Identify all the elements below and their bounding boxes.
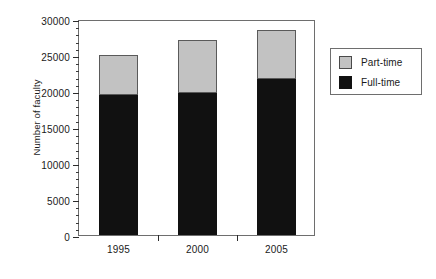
y-axis-minor-tick: [76, 79, 80, 80]
y-axis-minor-tick: [76, 35, 80, 36]
legend-item-full-time: Full-time: [339, 75, 400, 89]
bar-segment-full-time: [178, 93, 217, 235]
y-axis-tick-label: 20000: [41, 88, 70, 99]
y-axis-minor-tick: [76, 158, 80, 159]
bar-2005: [257, 19, 296, 235]
faculty-stacked-bar-chart: Number of faculty 0500010000150002000025…: [0, 0, 436, 279]
plot-area: 0500010000150002000025000300001995200020…: [78, 20, 315, 236]
y-axis-minor-tick: [76, 71, 80, 72]
y-axis-tick-label: 10000: [41, 160, 70, 171]
y-axis-tick-label: 5000: [47, 196, 70, 207]
y-axis-minor-tick: [76, 43, 80, 44]
bar-segment-part-time: [99, 55, 138, 95]
y-axis-tick-label: 15000: [41, 124, 70, 135]
y-axis-tick: [73, 57, 79, 58]
y-axis-tick: [73, 237, 79, 238]
legend-item-part-time: Part-time: [339, 55, 402, 69]
bar-1995: [99, 19, 138, 235]
legend-label-part-time: Part-time: [361, 57, 402, 68]
y-axis-minor-tick: [76, 187, 80, 188]
bar-segment-full-time: [99, 95, 138, 235]
x-axis-tick: [158, 235, 159, 241]
y-axis-title: Number of faculty: [31, 38, 42, 198]
y-axis-minor-tick: [76, 194, 80, 195]
y-axis-tick-label: 0: [64, 232, 70, 243]
y-axis-minor-tick: [76, 122, 80, 123]
bar-segment-full-time: [257, 79, 296, 235]
x-axis-tick: [237, 235, 238, 241]
bar-segment-part-time: [178, 40, 217, 93]
legend-swatch-part-time-icon: [339, 56, 352, 69]
y-axis-minor-tick: [76, 208, 80, 209]
x-axis-tick-label: 2005: [265, 244, 288, 255]
y-axis-tick: [73, 93, 79, 94]
y-axis-minor-tick: [76, 151, 80, 152]
legend-swatch-full-time-icon: [339, 76, 352, 89]
y-axis-minor-tick: [76, 28, 80, 29]
y-axis-minor-tick: [76, 64, 80, 65]
y-axis-minor-tick: [76, 86, 80, 87]
chart-legend: Part-time Full-time: [330, 48, 422, 95]
y-axis-minor-tick: [76, 107, 80, 108]
y-axis-minor-tick: [76, 230, 80, 231]
y-axis-tick: [73, 129, 79, 130]
y-axis-minor-tick: [76, 143, 80, 144]
y-axis-tick: [73, 165, 79, 166]
y-axis-tick-label: 25000: [41, 52, 70, 63]
legend-label-full-time: Full-time: [361, 77, 400, 88]
y-axis-tick: [73, 201, 79, 202]
y-axis-minor-tick: [76, 179, 80, 180]
y-axis-minor-tick: [76, 172, 80, 173]
y-axis-minor-tick: [76, 223, 80, 224]
y-axis-tick-label: 30000: [41, 16, 70, 27]
y-axis-minor-tick: [76, 115, 80, 116]
y-axis-minor-tick: [76, 136, 80, 137]
bar-segment-part-time: [257, 30, 296, 79]
x-axis-tick-label: 1995: [107, 244, 130, 255]
y-axis-minor-tick: [76, 50, 80, 51]
y-axis-minor-tick: [76, 100, 80, 101]
y-axis-tick: [73, 21, 79, 22]
x-axis-tick-label: 2000: [186, 244, 209, 255]
y-axis-minor-tick: [76, 215, 80, 216]
bar-2000: [178, 19, 217, 235]
